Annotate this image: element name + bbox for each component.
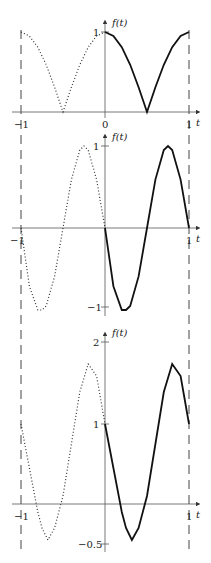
tick-label: 0 [102,119,108,130]
dotted-series [21,364,105,540]
tick-label: −1 [14,511,29,522]
tick-label: 1 [93,419,99,430]
y-axis-label: f(t) [111,17,128,28]
solid-series [105,364,189,540]
tick-label: −1 [10,235,25,246]
y-axis-label: f(t) [111,131,128,142]
tick-label: 1 [93,27,99,38]
tick-label: −1 [87,302,102,313]
x-axis-label: t [196,117,201,128]
panel-3: f(t) t −1 1 2 1 −0.5 [12,327,201,552]
tick-label: −0.5 [78,539,102,550]
tick-label: 1 [186,511,192,522]
x-axis-label: t [196,509,201,520]
tick-label: −1 [14,119,29,130]
dotted-series [21,32,105,112]
tick-label: 1 [186,119,192,130]
panel-2: f(t) t −1 1 1 −1 [10,131,201,316]
tick-label: 1 [186,235,192,246]
solid-series [105,32,189,112]
tick-label: 1 [93,141,99,152]
x-axis-label: t [196,233,201,244]
chart-canvas: f(t) t −1 0 1 1 f(t) t −1 1 1 −1 f(t) t … [0,0,211,563]
tick-label: 2 [93,337,99,348]
y-axis-label: f(t) [111,327,128,338]
panel-1: f(t) t −1 0 1 1 [12,17,201,130]
